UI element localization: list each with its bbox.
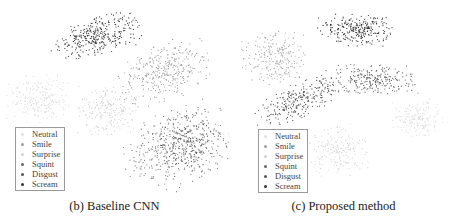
- legend-item-disgust: Disgust: [19, 169, 60, 179]
- legend-label: Disgust: [275, 171, 301, 181]
- legend-marker-icon: [264, 165, 267, 168]
- legend-item-neutral: Neutral: [19, 129, 60, 139]
- legend-label: Smile: [275, 141, 295, 151]
- legend-item-squint: Squint: [19, 159, 60, 169]
- series-disgust: [152, 114, 227, 167]
- panel-proposed-method: NeutralSmileSurpriseSquintDisgustScream …: [229, 0, 458, 217]
- series-neutral: [392, 98, 443, 136]
- legend-label: Surprise: [275, 151, 303, 161]
- legend-item-neutral: Neutral: [262, 131, 303, 141]
- legend-label: Neutral: [32, 129, 58, 139]
- legend-marker-icon: [264, 135, 267, 138]
- legend-marker-icon: [21, 183, 24, 186]
- legend-label: Scream: [275, 181, 301, 191]
- legend-proposed: NeutralSmileSurpriseSquintDisgustScream: [258, 129, 308, 193]
- legend-label: Surprise: [32, 149, 60, 159]
- legend-item-smile: Smile: [19, 139, 60, 149]
- legend-marker-icon: [21, 163, 24, 166]
- legend-label: Squint: [32, 159, 54, 169]
- series-squint: [123, 99, 229, 193]
- legend-marker-icon: [21, 153, 24, 156]
- legend-label: Neutral: [275, 131, 301, 141]
- legend-label: Squint: [275, 161, 297, 171]
- caption-baseline: (b) Baseline CNN: [0, 199, 229, 214]
- legend-marker-icon: [264, 175, 267, 178]
- legend-baseline: NeutralSmileSurpriseSquintDisgustScream: [15, 127, 65, 191]
- legend-marker-icon: [21, 173, 24, 176]
- legend-item-squint: Squint: [262, 161, 303, 171]
- series-squint: [320, 64, 418, 94]
- legend-marker-icon: [264, 185, 267, 188]
- legend-marker-icon: [264, 145, 267, 148]
- legend-label: Smile: [32, 139, 52, 149]
- series-scream: [51, 12, 142, 59]
- series-neutral: [6, 74, 69, 123]
- legend-label: Disgust: [32, 169, 58, 179]
- series-smile: [241, 31, 305, 85]
- panel-baseline-cnn: NeutralSmileSurpriseSquintDisgustScream …: [0, 0, 229, 217]
- legend-item-surprise: Surprise: [262, 151, 303, 161]
- series-surprise: [302, 123, 369, 176]
- legend-item-disgust: Disgust: [262, 171, 303, 181]
- legend-item-surprise: Surprise: [19, 149, 60, 159]
- legend-marker-icon: [21, 133, 24, 136]
- legend-item-scream: Scream: [19, 179, 60, 189]
- legend-label: Scream: [32, 179, 58, 189]
- series-disgust: [255, 70, 340, 131]
- legend-marker-icon: [21, 143, 24, 146]
- series-surprise: [77, 86, 144, 136]
- legend-item-smile: Smile: [262, 141, 303, 151]
- legend-marker-icon: [264, 155, 267, 158]
- caption-proposed: (c) Proposed method: [229, 199, 458, 214]
- series-scream: [317, 14, 393, 47]
- legend-item-scream: Scream: [262, 181, 303, 191]
